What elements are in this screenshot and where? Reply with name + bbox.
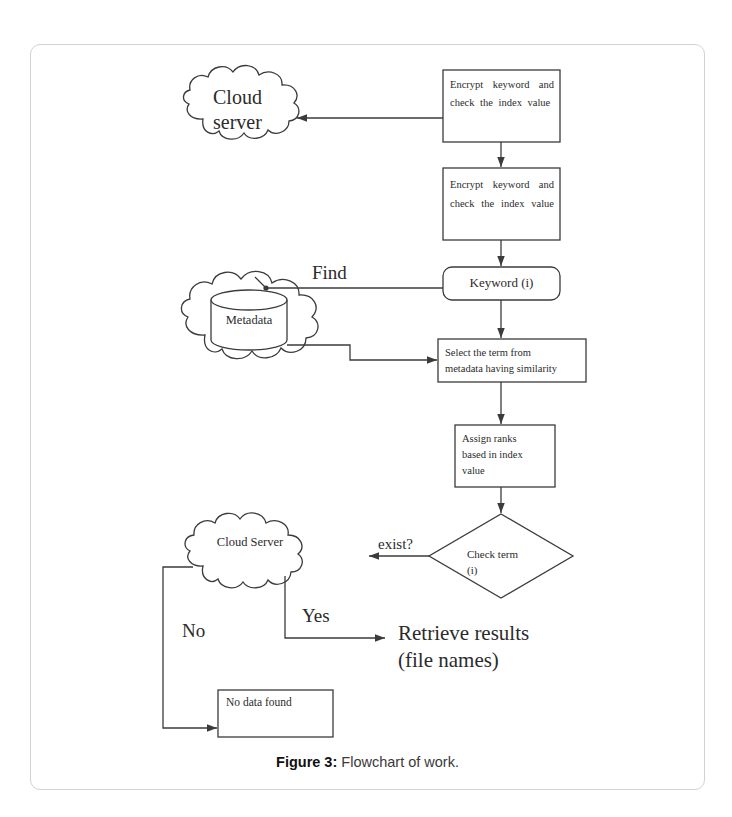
assign-ranks-line3: value xyxy=(462,463,554,479)
metadata-label: Metadata xyxy=(211,313,287,328)
figure-caption: Figure 3: Flowchart of work. xyxy=(30,754,705,770)
edge-label-no: No xyxy=(182,620,205,642)
edge-label-exist: exist? xyxy=(378,536,413,553)
retrieve-results-line1: Retrieve results xyxy=(398,620,618,647)
edge-yes xyxy=(285,576,385,638)
encrypt-box-2-label: Encrypt keyword and check the index valu… xyxy=(450,175,554,213)
retrieve-results-line2: (file names) xyxy=(398,647,618,674)
flowchart-canvas xyxy=(0,0,732,817)
select-term-line2: metadata having similarity xyxy=(445,361,583,377)
select-term-box-label: Select the term from metadata having sim… xyxy=(445,345,583,377)
figure-page: Cloud server Encrypt keyword and check t… xyxy=(0,0,732,817)
no-data-found-label: No data found xyxy=(226,696,292,708)
check-term-line2: (i) xyxy=(467,562,543,578)
select-term-line1: Select the term from xyxy=(445,345,583,361)
figure-caption-prefix: Figure 3 xyxy=(276,754,332,770)
assign-ranks-box-label: Assign ranks based in index value xyxy=(462,431,554,479)
check-term-diamond-label: Check term (i) xyxy=(467,546,543,578)
edge-label-yes: Yes xyxy=(302,605,330,627)
figure-caption-text: Flowchart of work. xyxy=(341,754,459,770)
retrieve-results-label: Retrieve results (file names) xyxy=(398,620,618,674)
cloud-server-bottom-label: Cloud Server xyxy=(205,535,295,550)
assign-ranks-line2: based in index xyxy=(462,447,554,463)
cloud-server-top-label: Cloud server xyxy=(213,85,303,135)
edge-find-tick xyxy=(255,277,266,288)
check-term-line1: Check term xyxy=(467,546,543,562)
cloud-server-top-line2: server xyxy=(213,110,303,135)
edge-label-find: Find xyxy=(312,262,347,284)
keyword-box-label: Keyword (i) xyxy=(443,275,560,291)
cloud-server-top-line1: Cloud xyxy=(213,85,303,110)
assign-ranks-line1: Assign ranks xyxy=(462,431,554,447)
edge-metadata-to-select xyxy=(287,345,437,360)
figure-caption-separator: : xyxy=(332,754,337,770)
encrypt-box-1-label: Encrypt keyword and check the index valu… xyxy=(450,76,554,112)
edge-no xyxy=(163,567,217,728)
